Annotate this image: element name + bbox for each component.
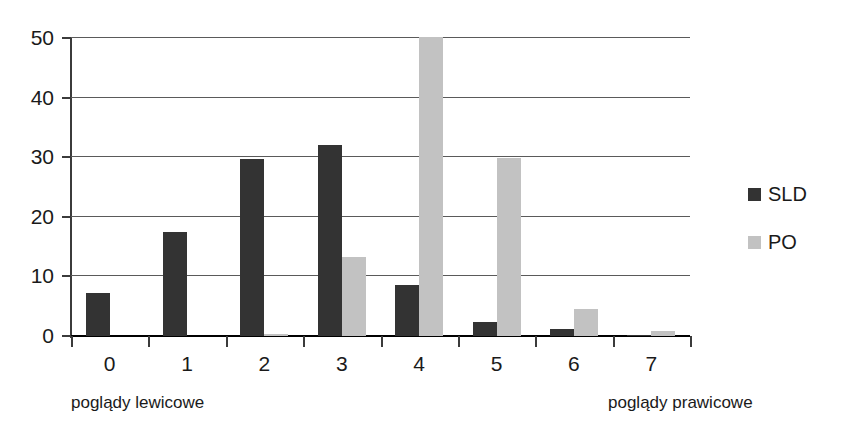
bar-group	[240, 38, 288, 336]
legend-label: SLD	[768, 184, 807, 204]
bar-sld-1	[163, 232, 187, 336]
y-axis-tick-label: 10	[8, 265, 54, 286]
x-axis-label-6: 6	[535, 352, 612, 376]
x-axis-tick	[226, 336, 228, 347]
y-axis-tick-label: 40	[8, 87, 54, 108]
x-axis-tick	[535, 336, 537, 347]
bar-sld-3	[318, 145, 342, 336]
axis-caption-left: poglądy lewicowe	[71, 393, 204, 413]
x-axis-label-4: 4	[381, 352, 458, 376]
bar-po-5	[497, 158, 521, 336]
x-axis-label-2: 2	[226, 352, 303, 376]
plot-area	[71, 38, 690, 336]
legend-label: PO	[768, 232, 797, 252]
x-axis-label-5: 5	[458, 352, 535, 376]
x-axis-tick	[148, 336, 150, 347]
bar-sld-4	[395, 285, 419, 336]
x-axis-tick	[71, 336, 73, 347]
y-axis-tick-label: 0	[8, 325, 54, 346]
bar-chart: 01020304050 01234567 poglądy lewicowe po…	[0, 0, 853, 436]
legend-swatch-icon	[748, 188, 761, 201]
bar-group	[163, 38, 211, 336]
legend-item-po: PO	[748, 230, 848, 254]
bar-po-4	[419, 37, 443, 336]
bar-group	[550, 38, 598, 336]
x-axis-tick-marks	[71, 336, 690, 348]
y-axis-tick-label: 50	[8, 27, 54, 48]
bar-sld-5	[473, 322, 497, 336]
x-axis-tick	[381, 336, 383, 347]
bar-group	[627, 38, 675, 336]
x-axis-label-0: 0	[71, 352, 148, 376]
x-axis-category-labels: 01234567	[71, 352, 690, 380]
legend: SLDPO	[748, 182, 848, 278]
axis-caption-right: poglądy prawicowe	[608, 393, 753, 413]
x-axis-label-7: 7	[613, 352, 690, 376]
legend-swatch-icon	[748, 236, 761, 249]
y-axis-tick-label: 20	[8, 206, 54, 227]
bar-sld-6	[550, 329, 574, 336]
legend-item-sld: SLD	[748, 182, 848, 206]
y-axis-tick-label: 30	[8, 146, 54, 167]
bar-po-3	[342, 257, 366, 336]
x-axis-tick	[458, 336, 460, 347]
x-axis-tick	[690, 336, 692, 347]
bar-group	[473, 38, 521, 336]
bar-group	[86, 38, 134, 336]
x-axis-tick	[613, 336, 615, 347]
x-axis-tick	[303, 336, 305, 347]
bar-po-6	[574, 309, 598, 336]
bar-group	[395, 38, 443, 336]
bar-sld-2	[240, 159, 264, 336]
bar-group	[318, 38, 366, 336]
x-axis-label-3: 3	[303, 352, 380, 376]
x-axis-label-1: 1	[148, 352, 225, 376]
bar-sld-0	[86, 293, 110, 336]
